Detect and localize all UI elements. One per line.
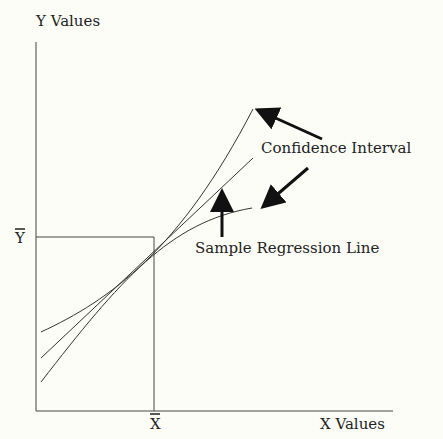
regression-line [41, 158, 253, 358]
lower-confidence-curve [41, 208, 252, 382]
regression-line-label: Sample Regression Line [195, 239, 379, 257]
arrow-to-upper-curve [260, 111, 322, 139]
confidence-interval-label: Confidence Interval [261, 139, 411, 157]
x-axis-label: X Values [320, 415, 385, 433]
y-axis-label: Y Values [35, 12, 100, 30]
regression-diagram: Y Values X Values Y X Confidence Interva… [0, 0, 443, 439]
y-bar-label: Y [14, 229, 26, 247]
arrow-to-lower-curve [265, 168, 308, 205]
x-bar-label: X [150, 415, 161, 433]
